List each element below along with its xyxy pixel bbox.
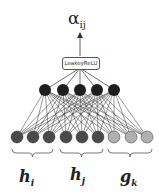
input-node: [92, 131, 104, 143]
input-node: [125, 131, 137, 143]
attention-coefficient: αij: [68, 8, 86, 30]
input-node: [108, 131, 120, 143]
group-brace: [60, 149, 103, 157]
leaky-relu-box: LeakeyReLU: [62, 57, 100, 70]
hidden-node: [108, 84, 120, 96]
hidden-node: [91, 84, 103, 96]
input-node: [27, 131, 39, 143]
hidden-node: [39, 84, 51, 96]
input-node: [76, 131, 88, 143]
group-brace: [12, 149, 53, 157]
alpha-symbol: α: [68, 8, 79, 28]
label-gk: gk: [120, 167, 137, 188]
input-node: [11, 131, 23, 143]
group-brace: [108, 149, 152, 157]
hidden-node: [57, 84, 69, 96]
alpha-subscript: ij: [79, 19, 85, 30]
input-node: [141, 131, 153, 143]
arrow-head-icon: [77, 32, 83, 38]
input-node: [60, 131, 72, 143]
hidden-node: [74, 84, 86, 96]
input-node: [43, 131, 55, 143]
label-hi: hi: [19, 167, 34, 188]
label-hj: hj: [70, 165, 85, 186]
